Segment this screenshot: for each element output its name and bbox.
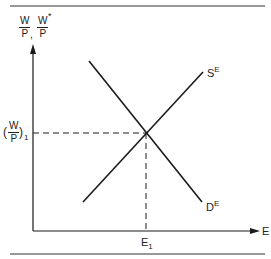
y-label-separator: ,: [30, 30, 33, 40]
y-label-den-2: P: [39, 28, 46, 39]
y-axis-arrow-icon: [30, 44, 36, 54]
supply-curve-label: SE: [207, 66, 220, 79]
eq-wage-fraction: W P: [8, 121, 19, 144]
demand-curve-label: DE: [206, 200, 219, 213]
supply-curve: [83, 72, 203, 202]
eq-wage-open-paren: (: [3, 126, 7, 138]
y-axis-label-expected-wage: W P: [37, 16, 48, 39]
demand-label-base: D: [206, 201, 214, 213]
eq-wage-close-paren: ): [19, 126, 23, 138]
y-label-star: *: [48, 12, 52, 21]
supply-label-sup: E: [214, 65, 219, 74]
eq-employment-label: E1: [141, 237, 153, 251]
demand-label-sup: E: [214, 199, 219, 208]
eq-wage-subscript: 1: [24, 134, 28, 142]
y-axis-label-real-wage: W P: [19, 16, 30, 39]
eq-emp-sub: 1: [148, 242, 152, 251]
y-label-den: P: [21, 28, 28, 39]
eq-wage-den: P: [10, 133, 17, 144]
y-label-num-2: W: [37, 16, 48, 28]
demand-curve: [89, 61, 202, 202]
x-axis-label: E: [262, 226, 269, 237]
eq-wage-num: W: [8, 121, 19, 133]
y-label-num: W: [19, 16, 30, 28]
x-axis-arrow-icon: [250, 228, 260, 234]
